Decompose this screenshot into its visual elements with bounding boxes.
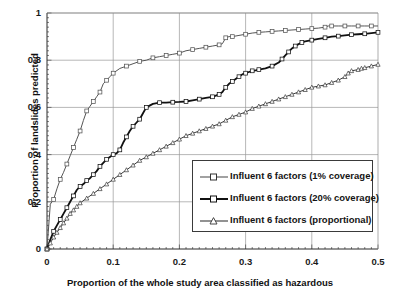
legend-marker-open-square-icon [200, 191, 228, 203]
legend-entry: Influent 6 factors (20% coverage) [200, 189, 379, 205]
legend-entry: Influent 6 factors (proportional) [200, 211, 371, 227]
x-axis-title: Proportion of the whole study area class… [0, 277, 400, 288]
legend-label: Influent 6 factors (1% coverage) [230, 170, 374, 181]
x-tick-label: 0.3 [231, 256, 261, 267]
legend-entry: Influent 6 factors (1% coverage) [200, 167, 374, 183]
y-tick-label: 0 [11, 243, 41, 254]
chart-plot-area [0, 0, 400, 295]
x-tick-label: 0.4 [297, 256, 327, 267]
chart-figure: 0 0.2 0.4 0.6 0.8 1 0 0.1 0.2 0.3 0.4 0.… [0, 0, 400, 295]
x-tick-label: 0.2 [164, 256, 194, 267]
y-tick-label: 1 [11, 7, 41, 18]
legend-label: Influent 6 factors (proportional) [230, 214, 371, 225]
legend-marker-open-triangle-icon [200, 213, 228, 225]
x-tick-label: 0.1 [98, 256, 128, 267]
legend-label: Influent 6 factors (20% coverage) [230, 192, 379, 203]
x-tick-label: 0 [32, 256, 62, 267]
y-axis-title: Proportion of landslides predicted [29, 31, 40, 231]
x-tick-label: 0.5 [363, 256, 393, 267]
legend-marker-open-square-icon [200, 169, 228, 181]
chart-legend: Influent 6 factors (1% coverage) Influen… [192, 160, 373, 232]
